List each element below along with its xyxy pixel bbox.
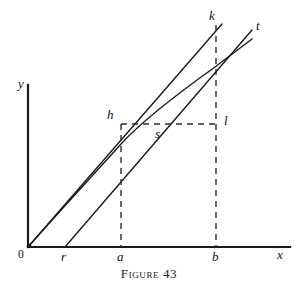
point-label-s: s [155, 127, 160, 140]
tick-label-b: b [212, 250, 219, 263]
tick-label-r: r [61, 250, 66, 263]
y-axis-label: y [18, 77, 24, 90]
figure-43: y x 0 r a b h s l k t Figure 43 [0, 0, 298, 292]
point-label-h: h [107, 108, 114, 121]
figure-caption: Figure 43 [0, 266, 298, 282]
point-label-l: l [224, 114, 228, 127]
origin-label: 0 [18, 249, 24, 261]
tick-label-a: a [117, 250, 124, 263]
point-label-t: t [256, 19, 260, 32]
x-axis-label: x [277, 248, 283, 261]
point-label-k: k [209, 9, 215, 22]
figure-canvas [0, 0, 298, 292]
curve-hs [28, 39, 252, 247]
